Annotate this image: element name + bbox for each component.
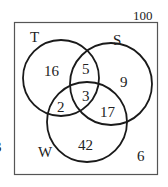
region-s-only: 9 bbox=[120, 74, 128, 90]
venn-diagram: 100 T S W 16 5 9 3 2 17 42 6 3 bbox=[0, 0, 168, 187]
region-w-only: 42 bbox=[78, 137, 93, 153]
region-t-s-w: 3 bbox=[82, 88, 90, 104]
edge-text-fragment: 3 bbox=[0, 139, 2, 155]
set-s-label: S bbox=[113, 32, 121, 48]
universal-total-label: 100 bbox=[133, 8, 153, 23]
region-t-w-only: 2 bbox=[57, 99, 65, 115]
region-t-only: 16 bbox=[44, 63, 60, 79]
region-outside: 6 bbox=[137, 148, 145, 164]
region-t-s-only: 5 bbox=[82, 61, 90, 77]
set-t-label: T bbox=[30, 29, 39, 45]
region-s-w-only: 17 bbox=[100, 104, 116, 120]
set-w-label: W bbox=[38, 144, 53, 160]
